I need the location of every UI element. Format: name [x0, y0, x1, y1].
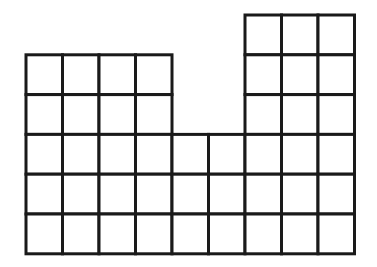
- grid-cell: [99, 214, 136, 254]
- grid-cell: [318, 95, 355, 135]
- grid-cell: [245, 55, 282, 95]
- grid-cell: [318, 134, 355, 174]
- grid-cell: [63, 174, 100, 214]
- grid-cell: [318, 55, 355, 95]
- grid-cell: [282, 214, 319, 254]
- grid-cell: [172, 174, 209, 214]
- grid-cell: [136, 214, 173, 254]
- grid-cell: [318, 174, 355, 214]
- grid-cell: [136, 134, 173, 174]
- grid-cell: [26, 55, 63, 95]
- grid-cell: [172, 214, 209, 254]
- grid-cell: [26, 95, 63, 135]
- grid-cell: [26, 134, 63, 174]
- grid-cell: [282, 95, 319, 135]
- grid-cell: [136, 55, 173, 95]
- grid-cell: [282, 55, 319, 95]
- grid-cell: [209, 214, 246, 254]
- grid-cell: [209, 174, 246, 214]
- grid-cell: [282, 134, 319, 174]
- grid-cell: [282, 15, 319, 55]
- grid-cell: [245, 134, 282, 174]
- square-grid-figure: [0, 0, 377, 267]
- grid-cell: [63, 95, 100, 135]
- grid-cell: [63, 134, 100, 174]
- grid-cell: [136, 174, 173, 214]
- grid-cell: [318, 214, 355, 254]
- grid-cell: [209, 134, 246, 174]
- grid-cell: [136, 95, 173, 135]
- grid-cell: [99, 134, 136, 174]
- grid-cell: [63, 55, 100, 95]
- grid-cell: [245, 214, 282, 254]
- grid-cell: [99, 95, 136, 135]
- grid-cell: [245, 174, 282, 214]
- grid-cell: [172, 134, 209, 174]
- grid-cell: [99, 174, 136, 214]
- grid-cell: [99, 55, 136, 95]
- grid-cell: [245, 15, 282, 55]
- grid-cell: [245, 95, 282, 135]
- grid-cell: [63, 214, 100, 254]
- grid-cell: [26, 214, 63, 254]
- grid-cell: [318, 15, 355, 55]
- grid-cell: [282, 174, 319, 214]
- grid-cell: [26, 174, 63, 214]
